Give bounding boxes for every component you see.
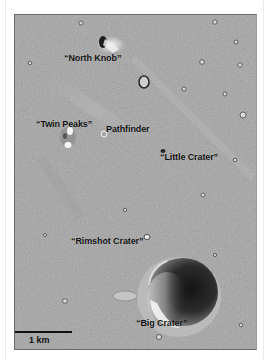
north-knob-feature [97,36,125,54]
scale-bar-label: 1 km [29,335,50,345]
label-twin-peaks: “Twin Peaks” [36,119,92,129]
label-little-crater: “Little Crater” [160,152,218,162]
label-pathfinder: Pathfinder [106,124,150,134]
left-guide-line [5,0,6,360]
right-guide-line [263,0,264,360]
label-rimshot-crater: “Rimshot Crater” [71,236,143,246]
label-north-knob: “North Knob” [64,53,121,63]
terrain-image [15,15,257,350]
label-big-crater: “Big Crater” [136,318,187,328]
scale-bar [14,331,72,333]
mars-terrain-figure: “North Knob” “Twin Peaks” Pathfinder “Li… [14,14,257,350]
